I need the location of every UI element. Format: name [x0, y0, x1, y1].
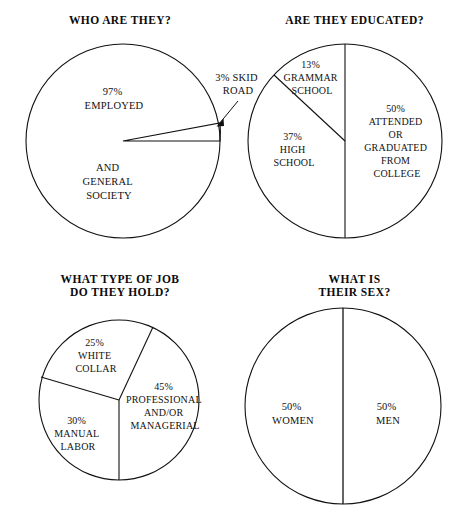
slice-label-professional: 45% PROFESSIONAL AND/OR MANAGERIAL: [126, 381, 204, 431]
pie-chart-what-is-their-sex: WHAT IS THEIR SEX? 50% WOMEN 50% MEN: [240, 264, 469, 528]
slice-label-white-collar: 25% WHITE COLLAR: [75, 337, 116, 374]
pie-canvas-what-type-of-job: 25% WHITE COLLAR 30% MANUAL LABOR 45% PR…: [0, 264, 240, 528]
chart-title-line: WHAT TYPE OF JOB: [0, 273, 240, 286]
chart-title-line: WHO ARE THEY?: [0, 14, 240, 27]
chart-title-line: ARE THEY EDUCATED?: [240, 14, 469, 27]
chart-title-what-type-of-job: WHAT TYPE OF JOB DO THEY HOLD?: [0, 273, 240, 299]
chart-title-line: WHAT IS: [240, 273, 469, 286]
chart-title-are-they-educated: ARE THEY EDUCATED?: [240, 14, 469, 27]
chart-title-who-are-they: WHO ARE THEY?: [0, 14, 240, 27]
chart-title-line: DO THEY HOLD?: [0, 286, 240, 299]
slice-label-college: 50% ATTENDED OR GRADUATED FROM COLLEGE: [364, 103, 430, 179]
pie-divider-white-collar: [41, 377, 119, 400]
pie-chart-who-are-they: WHO ARE THEY? 97% EMPLOYED AND GENERAL S…: [0, 0, 240, 264]
pie-canvas-who-are-they: 97% EMPLOYED AND GENERAL SOCIETY 3% SKID…: [0, 0, 240, 264]
slice-label-high-school: 37% HIGH SCHOOL: [273, 131, 314, 168]
pie-slice-skid-road: [123, 123, 220, 141]
pie-canvas-are-they-educated: 13% GRAMMAR SCHOOL 37% HIGH SCHOOL 50% A…: [240, 0, 469, 264]
figure-sheet: WHO ARE THEY? 97% EMPLOYED AND GENERAL S…: [0, 0, 469, 528]
pie-chart-what-type-of-job: WHAT TYPE OF JOB DO THEY HOLD? 25% WHITE…: [0, 264, 240, 528]
pie-divider-professional-start: [119, 327, 153, 400]
slice-label-manual-labor: 30% MANUAL LABOR: [54, 415, 101, 452]
slice-label-men: 50% MEN: [376, 401, 400, 426]
slice-label-women: 50% WOMEN: [272, 401, 314, 426]
slice-label-general-society: AND GENERAL SOCIETY: [83, 162, 136, 201]
slice-label-grammar-school: 13% GRAMMAR SCHOOL: [284, 59, 341, 96]
pie-chart-are-they-educated: ARE THEY EDUCATED? 13% GRAMMAR SCHOOL 37…: [240, 0, 469, 264]
slice-label-employed: 97% EMPLOYED: [85, 86, 144, 111]
chart-title-what-is-their-sex: WHAT IS THEIR SEX?: [240, 273, 469, 299]
pie-canvas-what-is-their-sex: 50% WOMEN 50% MEN: [240, 264, 469, 528]
chart-title-line: THEIR SEX?: [240, 286, 469, 299]
